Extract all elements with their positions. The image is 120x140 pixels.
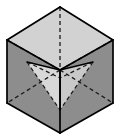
cube-diagram xyxy=(0,0,120,140)
figure-container xyxy=(0,0,120,140)
